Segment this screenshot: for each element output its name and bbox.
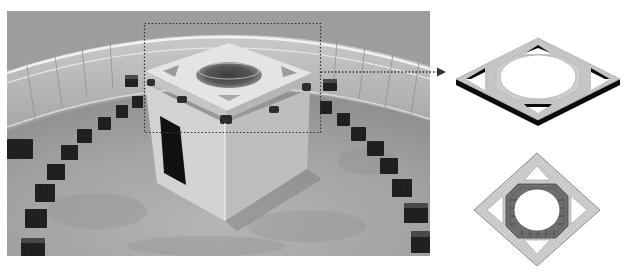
roof-slab-isometric-diagram: [452, 28, 624, 128]
roof-slab-underside-diagram: [470, 148, 605, 270]
photo-render: [7, 11, 430, 256]
building-photo: [7, 11, 430, 256]
figure-caption: [0, 0, 1, 1]
callout-arrowhead: [437, 68, 446, 77]
